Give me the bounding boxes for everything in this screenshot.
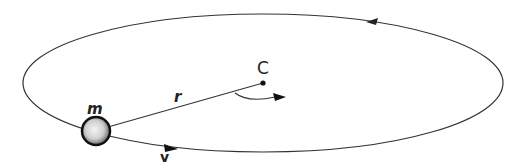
label-radius: r	[174, 88, 183, 106]
label-velocity: v	[160, 149, 169, 162]
orbit-direction-arrow-top	[366, 18, 378, 25]
radius-vector-line	[108, 83, 263, 127]
label-mass: m	[87, 100, 103, 118]
mass-ball	[82, 117, 110, 145]
rotation-arrow-head-icon	[273, 93, 286, 101]
rotation-arc	[235, 93, 275, 99]
orbit-diagram: C m r v	[0, 0, 527, 162]
center-point	[260, 80, 265, 85]
label-center: C	[257, 58, 269, 78]
